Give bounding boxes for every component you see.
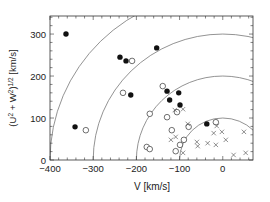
- y-tick-labels: 0100200300: [30, 29, 46, 166]
- open-circle-point: [147, 146, 153, 152]
- toomre-diagram: −400−300−200−1000 0100200300 V [km/s] (U…: [0, 0, 270, 202]
- plot-frame: [50, 16, 253, 160]
- cross-point: [181, 151, 185, 155]
- filled-circle-point: [63, 31, 68, 36]
- filled-circle-point: [177, 102, 182, 107]
- cross-point: [205, 141, 209, 145]
- x-tick-label: −300: [82, 163, 103, 174]
- open-circle-point: [213, 119, 219, 125]
- cross-point: [196, 144, 200, 148]
- axis-ticks: [50, 16, 253, 160]
- cross-point: [224, 138, 228, 142]
- x-axis-label: V [km/s]: [134, 181, 170, 192]
- filled-circle-point: [117, 54, 122, 59]
- open-circle-point: [129, 58, 135, 64]
- open-circle-point: [177, 142, 183, 148]
- filled-circle-point: [154, 45, 159, 50]
- open-circle-point: [164, 114, 170, 120]
- cross-point: [220, 130, 224, 134]
- open-circle-point: [160, 83, 166, 89]
- open-circle-point: [120, 90, 126, 96]
- filled-circle-point: [204, 121, 209, 126]
- y-tick-label: 100: [30, 113, 46, 124]
- filled-circle-point: [72, 124, 77, 129]
- cross-point: [181, 107, 185, 111]
- y-tick-label: 300: [30, 29, 46, 40]
- cross-point: [243, 151, 247, 155]
- cross-point: [231, 153, 235, 157]
- cross-point: [173, 135, 177, 139]
- open-circle-point: [169, 127, 175, 133]
- data-points: [63, 31, 248, 157]
- cross-point: [214, 143, 218, 147]
- y-tick-label: 200: [30, 71, 46, 82]
- open-circle-point: [83, 127, 89, 133]
- cross-point: [242, 130, 246, 134]
- cross-point: [169, 138, 173, 142]
- filled-circle-point: [128, 92, 133, 97]
- cross-point: [195, 140, 199, 144]
- x-tick-label: 0: [220, 163, 225, 174]
- open-circle-point: [181, 137, 187, 143]
- open-circle-point: [147, 111, 153, 117]
- y-tick-label: 0: [41, 155, 46, 166]
- filled-circle-point: [164, 88, 169, 93]
- x-tick-labels: −400−300−200−1000: [39, 163, 225, 174]
- filled-circle-point: [176, 90, 181, 95]
- x-tick-label: −200: [126, 163, 147, 174]
- cross-point: [211, 131, 215, 135]
- filled-circle-point: [167, 97, 172, 102]
- x-tick-label: −100: [169, 163, 190, 174]
- y-axis-label: (U2 + W2)1/2 [km/s]: [7, 49, 18, 126]
- open-circle-point: [173, 148, 179, 154]
- filled-circle-point: [123, 58, 128, 63]
